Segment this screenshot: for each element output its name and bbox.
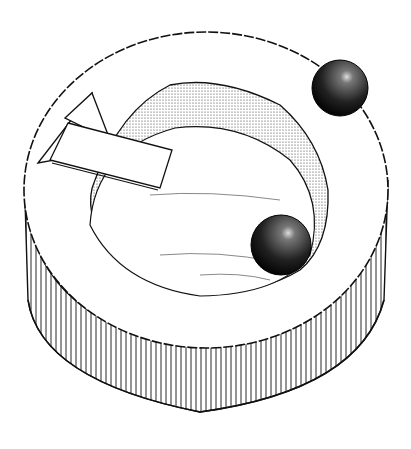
ring-illustration bbox=[0, 0, 411, 449]
sphere-top-right bbox=[312, 60, 368, 116]
sphere-inner bbox=[251, 215, 311, 275]
illustration bbox=[0, 0, 411, 449]
